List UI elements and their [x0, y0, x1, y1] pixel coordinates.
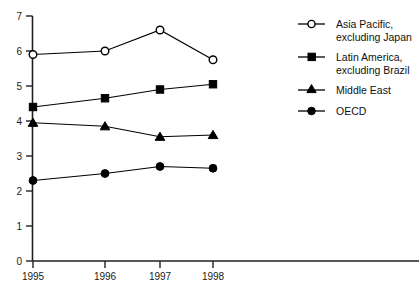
series-line — [33, 84, 213, 107]
x-tick-label: 1998 — [202, 271, 225, 282]
legend-label: Latin America, — [336, 51, 403, 63]
filled-circle-icon — [308, 107, 316, 115]
legend-label: OECD — [336, 105, 367, 117]
y-tick-label: 5 — [16, 81, 22, 92]
x-tick-marks — [33, 261, 213, 268]
legend-label: Middle East — [336, 84, 391, 96]
data-point-open-circle — [209, 56, 217, 64]
data-point-open-circle — [156, 26, 164, 34]
legend-item-asia-pacific[interactable]: Asia Pacific, excluding Japan — [298, 18, 412, 43]
y-tick-label: 0 — [16, 256, 22, 267]
series-line — [33, 30, 213, 60]
y-tick-label: 3 — [16, 151, 22, 162]
x-tick-label: 1995 — [22, 271, 45, 282]
series-line — [33, 167, 213, 181]
chart-container: 7 6 5 4 3 2 1 0 1995 1996 1997 1998 — [0, 0, 419, 299]
series-latin-america-excluding-brazil — [29, 81, 216, 111]
data-point-filled-circle — [156, 163, 164, 171]
open-circle-icon — [308, 20, 315, 27]
legend-item-middle-east[interactable]: Middle East — [298, 84, 391, 96]
data-point-open-circle — [101, 47, 109, 55]
data-point-filled-square — [209, 81, 216, 88]
y-tick-label: 4 — [16, 116, 22, 127]
y-tick-label: 1 — [16, 221, 22, 232]
legend-item-oecd[interactable]: OECD — [298, 105, 367, 117]
y-tick-labels: 7 6 5 4 3 2 1 0 — [16, 11, 22, 267]
data-point-filled-triangle — [28, 118, 38, 126]
data-point-filled-square — [101, 95, 108, 102]
y-tick-label: 2 — [16, 186, 22, 197]
line-chart: 7 6 5 4 3 2 1 0 1995 1996 1997 1998 — [0, 0, 419, 299]
y-tick-label: 7 — [16, 11, 22, 22]
data-point-filled-square — [156, 86, 163, 93]
x-tick-label: 1997 — [149, 271, 172, 282]
filled-square-icon — [308, 53, 315, 60]
data-point-filled-circle — [101, 170, 109, 178]
data-point-filled-square — [29, 103, 36, 110]
data-point-filled-circle — [29, 177, 37, 185]
data-point-open-circle — [29, 51, 37, 59]
legend-label: Asia Pacific, — [336, 18, 393, 30]
legend-item-latin-america[interactable]: Latin America, excluding Brazil — [298, 51, 410, 76]
series-middle-east — [28, 118, 218, 140]
data-point-filled-circle — [209, 164, 217, 172]
filled-triangle-icon — [307, 85, 316, 93]
series-asia-pacific-excluding-japan — [29, 26, 217, 63]
x-tick-label: 1996 — [94, 271, 117, 282]
data-point-filled-triangle — [208, 130, 218, 138]
legend-label: excluding Brazil — [336, 64, 410, 76]
y-tick-label: 6 — [16, 46, 22, 57]
series-oecd — [29, 163, 217, 185]
legend-label: excluding Japan — [336, 31, 412, 43]
x-tick-labels: 1995 1996 1997 1998 — [22, 271, 225, 282]
chart-legend: Asia Pacific, excluding Japan Latin Amer… — [298, 18, 412, 117]
series-line — [33, 123, 213, 137]
plot-series-layer — [28, 26, 218, 184]
